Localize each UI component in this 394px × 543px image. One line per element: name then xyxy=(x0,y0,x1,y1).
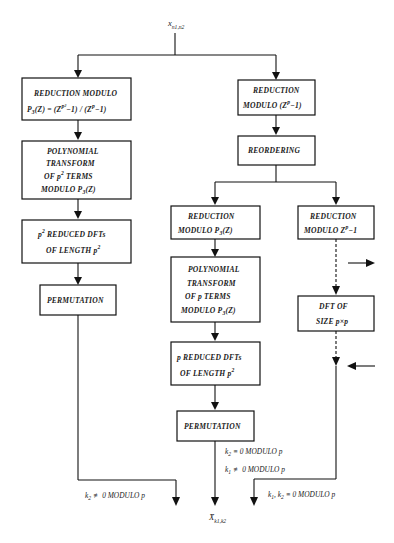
box-reduction-modulo-zp-1: REDUCTION MODULO (Zp−1) xyxy=(238,80,315,115)
input-node-label: xn1,n2 xyxy=(167,18,185,30)
svg-text:P3(Z) = (Zp²−1) / (Zp−1): P3(Z) = (Zp²−1) / (Zp−1) xyxy=(27,103,107,115)
svg-text:TRANSFORM: TRANSFORM xyxy=(46,159,95,168)
arrowhead-icon xyxy=(211,402,219,410)
svg-text:REDUCTION: REDUCTION xyxy=(252,86,300,95)
external-arrow-in xyxy=(347,362,375,370)
svg-text:POLYNOMIAL: POLYNOMIAL xyxy=(188,265,240,274)
box-polynomial-transform-p2: POLYNOMIAL TRANSFORM OF p2 TERMS MODULO … xyxy=(22,141,131,199)
label-k1-k2-zero: k1, k2 ≡ 0 MODULO p xyxy=(268,490,336,500)
svg-text:MODULO P3(Z): MODULO P3(Z) xyxy=(180,306,236,316)
input-split-connector xyxy=(74,33,280,80)
arrowhead-icon xyxy=(211,249,219,257)
svg-text:MODULO P3(Z): MODULO P3(Z) xyxy=(177,226,233,236)
svg-text:p REDUCED DFTs: p REDUCED DFTs xyxy=(176,353,242,362)
svg-text:POLYNOMIAL: POLYNOMIAL xyxy=(47,147,99,156)
box-permutation-mid: PERMUTATION xyxy=(177,411,254,441)
arrowhead-icon xyxy=(272,127,280,135)
right-output-connector xyxy=(250,366,336,506)
arrowhead-icon xyxy=(332,197,340,205)
svg-text:p2 REDUCED DFTs: p2 REDUCED DFTs xyxy=(37,228,106,239)
arrowhead-icon xyxy=(74,277,82,285)
box-polynomial-transform-p: POLYNOMIAL TRANSFORM OF p TERMS MODULO P… xyxy=(171,257,260,322)
arrowhead-icon xyxy=(74,211,82,219)
reorder-split-connector xyxy=(211,165,340,205)
arrowhead-icon xyxy=(74,70,82,78)
box-p2-reduced-dfts: p2 REDUCED DFTs OF LENGTH p2 xyxy=(22,220,131,263)
svg-text:OF LENGTH p2: OF LENGTH p2 xyxy=(46,244,100,255)
arrow-left-icon xyxy=(347,362,356,370)
svg-text:REORDERING: REORDERING xyxy=(247,146,301,155)
arrowhead-icon xyxy=(272,72,280,80)
svg-text:PERMUTATION: PERMUTATION xyxy=(47,296,104,305)
svg-text:OF p2 TERMS: OF p2 TERMS xyxy=(44,170,93,181)
svg-text:TRANSFORM: TRANSFORM xyxy=(187,279,236,288)
arrowhead-icon xyxy=(332,357,340,366)
arrowhead-icon xyxy=(74,132,82,140)
box-reduction-modulo-p3-mid: REDUCTION MODULO P3(Z) xyxy=(171,206,260,239)
box-reduction-modulo-p3: REDUCTION MODULO P3(Z) = (Zp²−1) / (Zp−1… xyxy=(22,78,131,120)
flowchart-canvas: xn1,n2 REDUCTION MODULO P3(Z) = (Zp²−1) … xyxy=(0,0,394,543)
svg-text:OF LENGTH p2: OF LENGTH p2 xyxy=(180,367,234,378)
arrowhead-icon xyxy=(332,286,340,295)
svg-text:OF p TERMS: OF p TERMS xyxy=(185,292,231,301)
box-reordering: REORDERING xyxy=(238,136,315,165)
external-arrow-out xyxy=(348,259,375,267)
svg-text:PERMUTATION: PERMUTATION xyxy=(184,422,241,431)
label-k1-not-zero: k1 ≢ 0 MODULO p xyxy=(225,465,285,475)
svg-text:REDUCTION: REDUCTION xyxy=(187,212,235,221)
label-k2-not-zero: k2 ≢ 0 MODULO p xyxy=(85,491,145,501)
arrowhead-icon xyxy=(250,497,258,506)
svg-text:REDUCTION MODULO: REDUCTION MODULO xyxy=(33,89,117,98)
arrowhead-icon xyxy=(211,497,219,506)
svg-text:SIZE p×p: SIZE p×p xyxy=(316,317,348,326)
arrow-right-icon xyxy=(366,259,375,267)
box-p-reduced-dfts: p REDUCED DFTs OF LENGTH p2 xyxy=(171,342,260,385)
left-output-connector xyxy=(78,315,180,506)
svg-text:MODULO Zp−1: MODULO Zp−1 xyxy=(303,224,357,235)
label-k2-zero: k2 ≡ 0 MODULO p xyxy=(225,447,283,457)
output-node-label: X̄k1,k2 xyxy=(208,512,226,524)
svg-text:MODULO (Zp−1): MODULO (Zp−1) xyxy=(242,99,302,110)
svg-text:REDUCTION: REDUCTION xyxy=(309,212,357,221)
box-dft-size-pxp: DFT OF SIZE p×p xyxy=(298,296,374,331)
arrowhead-icon xyxy=(211,333,219,341)
box-permutation-left: PERMUTATION xyxy=(40,285,116,315)
arrowhead-icon xyxy=(211,197,219,205)
svg-text:MODULO P3(Z): MODULO P3(Z) xyxy=(40,185,96,195)
box-reduction-modulo-zp-1-right: REDUCTION MODULO Zp−1 xyxy=(298,206,374,239)
arrowhead-icon xyxy=(172,497,180,506)
svg-text:DFT OF: DFT OF xyxy=(318,302,348,311)
